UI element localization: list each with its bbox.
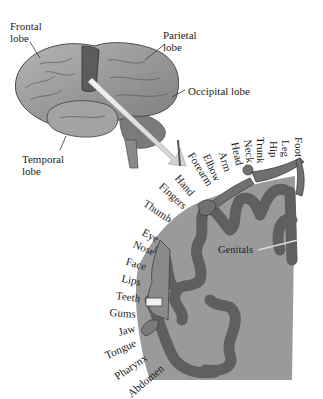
genitals-label: Genitals bbox=[218, 244, 253, 256]
parietal-label-line2: lobe bbox=[163, 41, 197, 53]
body-part-label: Trunk bbox=[255, 137, 267, 164]
brain-illustration bbox=[15, 43, 178, 168]
frontal-label-line2: lobe bbox=[10, 32, 42, 44]
temporal-label-line1: Temporal bbox=[22, 153, 64, 165]
occipital-lobe-label: Occipital lobe bbox=[188, 85, 250, 97]
body-part-label: Gums bbox=[109, 306, 136, 320]
temporal-label-line2: lobe bbox=[22, 165, 64, 177]
body-part-label: Hip bbox=[268, 141, 280, 158]
body-part-label: Foot bbox=[293, 137, 305, 157]
temporal-lobe-label: Temporal lobe bbox=[22, 153, 64, 177]
frontal-lobe-label: Frontal lobe bbox=[10, 20, 42, 44]
parietal-label-line1: Parietal bbox=[163, 29, 197, 41]
frontal-label-line1: Frontal bbox=[10, 20, 42, 32]
body-part-label: Leg bbox=[280, 140, 292, 157]
parietal-lobe-label: Parietal lobe bbox=[163, 29, 197, 53]
